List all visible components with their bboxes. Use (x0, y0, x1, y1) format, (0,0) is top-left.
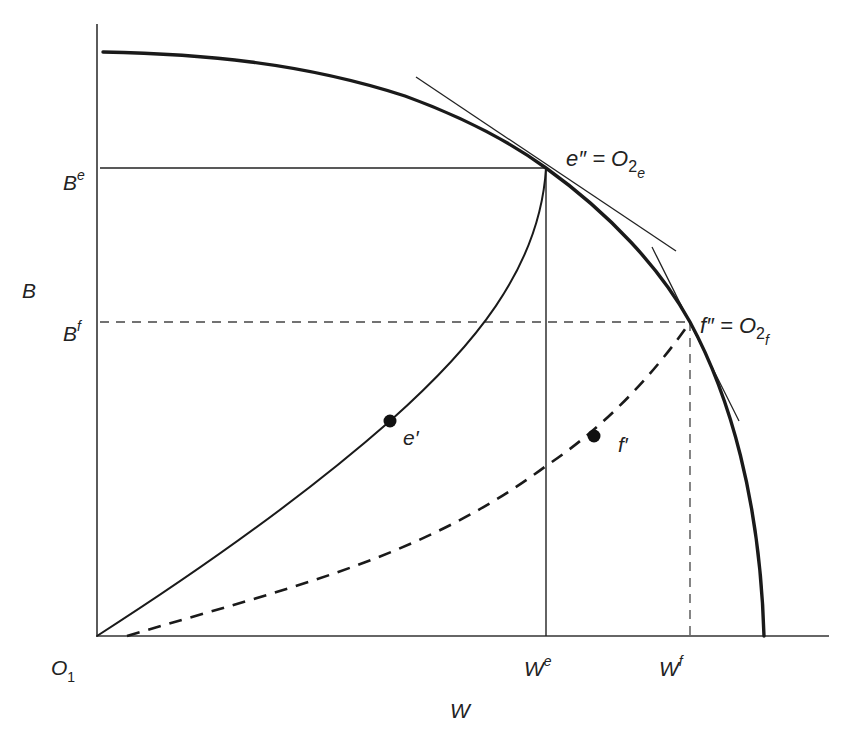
we-superscript: e (544, 653, 552, 669)
f-prime-label: f′ (618, 433, 629, 456)
contract-curve-e (97, 168, 546, 636)
edgeworth-frontier-diagram: B W O1 Be Bf We Wf e″ = O2e f″ = O2f e′ … (0, 0, 844, 750)
f-double-prime-label: f″ = O2f (700, 313, 771, 348)
point-f-prime (588, 430, 601, 443)
we-base: W (524, 657, 546, 680)
e-double-prime-sub: 2 (628, 158, 637, 175)
f-double-prime-sub: 2 (756, 325, 765, 342)
production-possibility-frontier (103, 52, 764, 636)
be-tick-label: Be (63, 167, 85, 194)
bf-base: B (63, 322, 77, 345)
origin-label-subscript: 1 (67, 669, 75, 685)
x-axis-label: W (450, 699, 472, 722)
wf-superscript: f (679, 653, 685, 669)
f-double-prime-subsub: f (765, 332, 771, 348)
y-axis-label: B (22, 279, 36, 302)
origin-label: O1 (51, 656, 75, 685)
we-tick-label: We (524, 653, 552, 680)
e-double-prime-subsub: e (637, 165, 645, 181)
wf-tick-label: Wf (659, 653, 685, 680)
e-prime-label: e′ (403, 426, 420, 449)
origin-label-base: O (51, 656, 67, 679)
be-base: B (63, 171, 77, 194)
e-double-prime-label: e″ = O2e (566, 146, 645, 181)
bf-tick-label: Bf (63, 318, 83, 345)
point-e-prime (384, 415, 397, 428)
f-double-prime-lhs: f″ = O (700, 313, 756, 338)
e-double-prime-lhs: e″ = O (566, 146, 628, 171)
wf-base: W (659, 657, 681, 680)
contract-curve-f (127, 322, 690, 636)
bf-superscript: f (77, 318, 83, 334)
be-superscript: e (77, 167, 85, 183)
